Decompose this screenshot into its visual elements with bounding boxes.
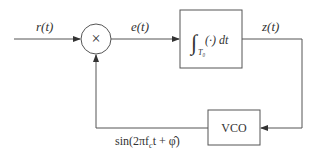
feedback-signal-label: sin(2πfct + φ̂) bbox=[115, 134, 180, 150]
multiplier-icon: × bbox=[91, 30, 100, 47]
input-signal-label: r(t) bbox=[36, 19, 53, 34]
integral-limit: T₀ bbox=[198, 48, 205, 57]
integrator-output-label: z(t) bbox=[261, 19, 279, 34]
integral-body: (·) dt bbox=[205, 33, 229, 47]
block-diagram: r(t) × e(t) ∫ T₀ (·) dt z(t) VCO sin(2πf… bbox=[0, 0, 315, 151]
vco-label: VCO bbox=[221, 121, 247, 135]
error-signal-label: e(t) bbox=[131, 19, 149, 34]
